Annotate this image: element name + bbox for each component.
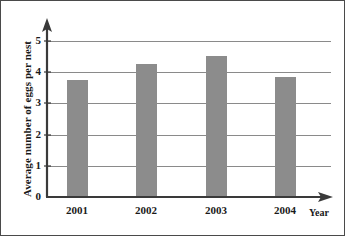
bar-chart: 5 4 3 2 1 0 2001 2002 2003 2004 Average … <box>1 1 345 236</box>
x-tick-label-2004: 2004 <box>262 204 308 216</box>
x-tick-label-2001: 2001 <box>54 204 100 216</box>
x-axis-title: Year <box>309 207 329 218</box>
y-axis-title: Average number of eggs per nest <box>21 29 33 209</box>
x-tick-label-2003: 2003 <box>193 204 239 216</box>
x-tick-label-2002: 2002 <box>123 204 169 216</box>
axis-lines <box>1 1 345 236</box>
chart-screenshot: 5 4 3 2 1 0 2001 2002 2003 2004 Average … <box>0 0 345 236</box>
